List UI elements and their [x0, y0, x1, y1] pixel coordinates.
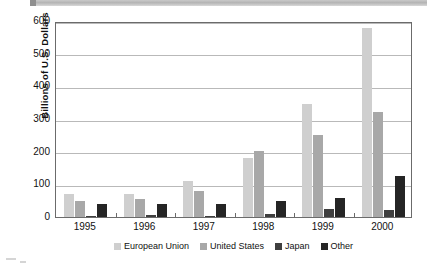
bar-group-1999 [294, 23, 354, 217]
legend-swatch-icon [200, 243, 207, 250]
bar-united-states-1998 [254, 151, 264, 217]
x-tick-label-1995: 1995 [55, 221, 115, 232]
x-tick-label-1998: 1998 [234, 221, 294, 232]
bar-other-1996 [157, 204, 167, 217]
bar-european-union-1995 [64, 194, 74, 217]
bar-european-union-1996 [124, 194, 134, 217]
bar-other-1995 [97, 204, 107, 217]
x-axis-tick-mark [354, 213, 355, 217]
bar-japan-1999 [324, 209, 334, 217]
y-tick-label: 100 [14, 179, 50, 189]
legend-swatch-icon [321, 243, 328, 250]
legend-item-other[interactable]: Other [321, 241, 354, 251]
bar-series-container [56, 23, 411, 217]
bar-united-states-1995 [75, 201, 85, 217]
bar-chart-figure: Billions of U.S. Dollars 010020030040050… [0, 0, 427, 270]
y-tick-label: 300 [14, 114, 50, 124]
legend-swatch-icon [114, 243, 121, 250]
bar-group-1997 [175, 23, 235, 217]
scan-speckle [20, 261, 26, 263]
bar-group-1996 [116, 23, 176, 217]
chart-legend: European UnionUnited StatesJapanOther [55, 239, 412, 253]
x-axis-tick-mark [235, 213, 236, 217]
y-tick-label: 600 [14, 16, 50, 26]
bar-japan-1998 [265, 214, 275, 217]
bar-other-2000 [395, 176, 405, 217]
x-tick-label-2000: 2000 [353, 221, 413, 232]
bar-group-2000 [354, 23, 414, 217]
y-tick-label: 200 [14, 147, 50, 157]
legend-label: Japan [285, 241, 310, 251]
bar-united-states-1997 [194, 191, 204, 217]
bar-japan-1997 [205, 216, 215, 217]
bar-other-1997 [216, 204, 226, 217]
legend-item-european-union[interactable]: European Union [114, 241, 189, 251]
bar-other-1999 [335, 198, 345, 217]
plot-area [55, 22, 412, 218]
bar-european-union-1999 [302, 104, 312, 217]
bar-group-1998 [235, 23, 295, 217]
legend-swatch-icon [275, 243, 282, 250]
bar-group-1995 [56, 23, 116, 217]
x-axis-tick-labels: 199519961997199819992000 [55, 221, 412, 237]
legend-item-japan[interactable]: Japan [275, 241, 310, 251]
legend-item-united-states[interactable]: United States [200, 241, 264, 251]
bar-european-union-1997 [183, 181, 193, 217]
y-tick-label: 500 [14, 49, 50, 59]
bar-european-union-1998 [243, 158, 253, 217]
bar-european-union-2000 [362, 28, 372, 217]
legend-label: Other [331, 241, 354, 251]
x-axis-tick-mark [175, 213, 176, 217]
legend-label: European Union [124, 241, 189, 251]
legend-label: United States [210, 241, 264, 251]
x-axis-tick-mark [294, 213, 295, 217]
bar-japan-1996 [146, 215, 156, 217]
bar-united-states-1996 [135, 199, 145, 217]
bar-japan-2000 [384, 210, 394, 217]
bar-other-1998 [276, 201, 286, 217]
scan-speckle [6, 258, 16, 260]
bar-united-states-1999 [313, 135, 323, 217]
bar-japan-1995 [86, 216, 96, 217]
x-axis-tick-mark [116, 213, 117, 217]
bar-united-states-2000 [373, 112, 383, 217]
y-tick-label: 0 [14, 212, 50, 222]
x-tick-label-1999: 1999 [293, 221, 353, 232]
x-tick-label-1997: 1997 [174, 221, 234, 232]
y-tick-label: 400 [14, 81, 50, 91]
x-tick-label-1996: 1996 [115, 221, 175, 232]
